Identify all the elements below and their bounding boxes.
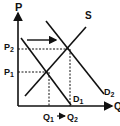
p1-label: P1 — [4, 67, 14, 78]
supply-label: S — [85, 10, 92, 21]
x-axis-label: Q — [114, 101, 120, 112]
supply-demand-diagram: P Q S D1 D2 P2 P1 Q1 Q2 — [0, 0, 120, 126]
q1-label: Q1 — [43, 112, 54, 123]
d2-label: D2 — [104, 87, 115, 98]
q2-label: Q2 — [67, 112, 78, 123]
d1-label: D1 — [73, 94, 84, 105]
y-axis-label: P — [15, 1, 22, 13]
supply-curve — [25, 27, 86, 96]
p2-label: P2 — [4, 42, 14, 53]
